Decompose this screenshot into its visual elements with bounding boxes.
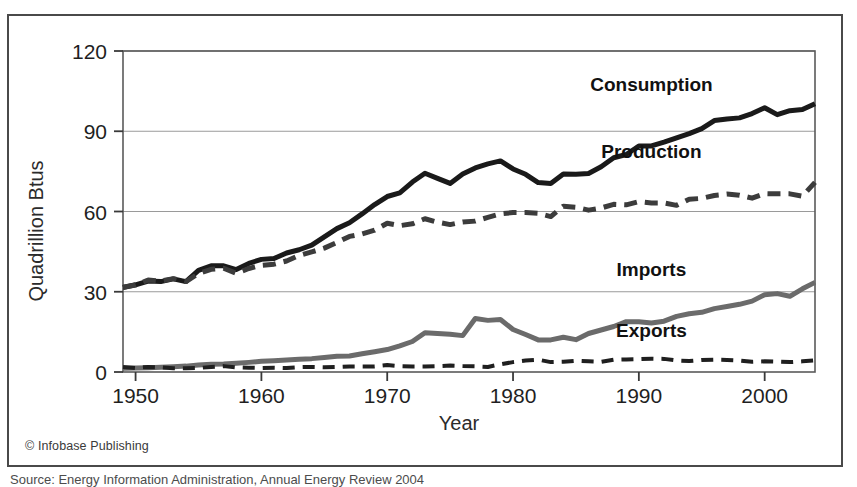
series-label-consumption: Consumption [590, 74, 712, 95]
x-tick-labels: 195019601970198019902000 [112, 384, 788, 407]
x-tick-label: 1970 [364, 384, 411, 407]
x-tick-label: 1990 [615, 384, 662, 407]
series-label-exports: Exports [616, 320, 687, 341]
series-line-production [123, 182, 815, 287]
series-line-imports [123, 282, 815, 368]
energy-line-chart: 0306090120 195019601970198019902000 Cons… [9, 16, 841, 465]
y-axis-title: Quadrillion Btus [25, 160, 47, 301]
y-tick-label: 90 [84, 120, 107, 143]
x-tick-label: 1980 [490, 384, 537, 407]
top-trim-strip [0, 0, 857, 10]
y-tick-label: 0 [95, 361, 107, 384]
source-caption: Source: Energy Information Administratio… [10, 472, 850, 487]
x-axis-title: Year [439, 412, 480, 434]
publisher-credit: © Infobase Publishing [25, 439, 149, 453]
x-tick-label: 1950 [112, 384, 159, 407]
chart-figure: 0306090120 195019601970198019902000 Cons… [7, 14, 843, 467]
data-series [123, 104, 815, 369]
y-tick-label: 120 [72, 40, 107, 63]
series-label-production: Production [601, 141, 701, 162]
series-label-imports: Imports [617, 259, 687, 280]
x-tick-label: 2000 [741, 384, 788, 407]
x-tick-label: 1960 [238, 384, 285, 407]
y-tick-label: 30 [84, 281, 107, 304]
y-tick-label: 60 [84, 201, 107, 224]
y-tick-labels: 0306090120 [72, 40, 107, 384]
